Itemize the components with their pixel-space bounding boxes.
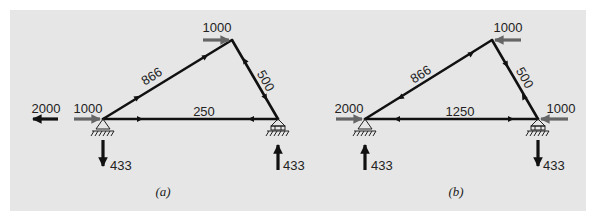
load-label: 2000 <box>335 101 364 116</box>
reaction-label: 433 <box>543 158 565 173</box>
reaction-label: 433 <box>371 158 393 173</box>
reaction-label: 2000 <box>32 101 61 116</box>
truss-figure: 866 500 250 <box>0 0 596 223</box>
load-label: 1000 <box>547 101 576 116</box>
panel-caption: (b) <box>448 184 463 199</box>
member-force-label: 1250 <box>446 104 475 119</box>
reaction-label: 433 <box>283 158 305 173</box>
reaction-label: 433 <box>110 158 132 173</box>
load-label: 1000 <box>494 20 523 35</box>
panel-caption: (a) <box>155 184 170 199</box>
load-label: 1000 <box>74 101 103 116</box>
member-force-label: 250 <box>193 104 215 119</box>
load-label: 1000 <box>203 20 232 35</box>
